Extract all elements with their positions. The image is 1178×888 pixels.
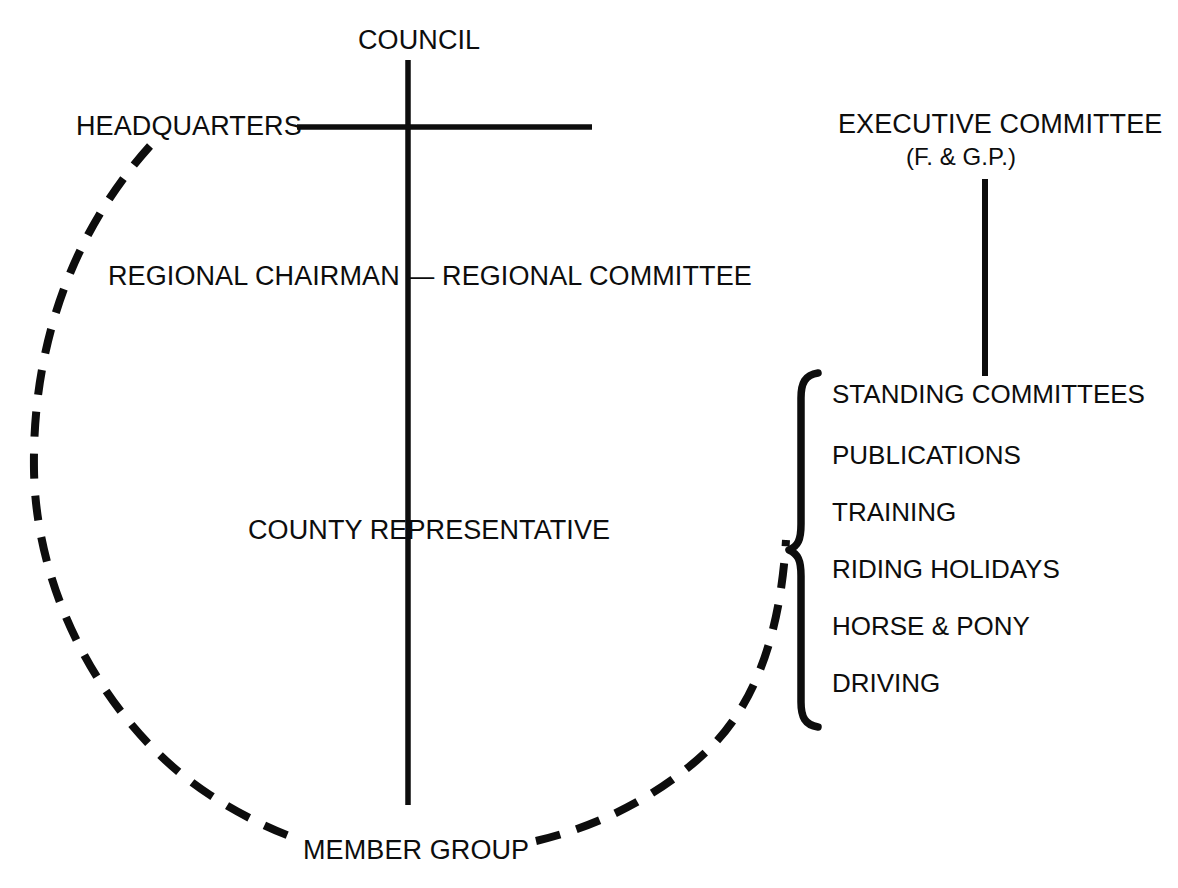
committee-item: RIDING HOLIDAYS bbox=[832, 554, 1060, 585]
committee-item: PUBLICATIONS bbox=[832, 440, 1021, 471]
member-group-to-committees-dashed-arc bbox=[536, 540, 786, 841]
node-executive-committee-subtitle: (F. & G.P.) bbox=[838, 144, 1084, 170]
node-county-representative: COUNTY REPRESENTATIVE bbox=[248, 516, 610, 545]
node-headquarters: HEADQUARTERS bbox=[76, 112, 302, 141]
org-chart-diagram: COUNCIL HEADQUARTERS EXECUTIVE COMMITTEE… bbox=[0, 0, 1178, 888]
node-regional-chairman-committee: REGIONAL CHAIRMAN — REGIONAL COMMITTEE bbox=[108, 262, 752, 291]
committee-item: STANDING COMMITTEES bbox=[832, 379, 1145, 410]
standing-committees-brace bbox=[789, 373, 818, 727]
node-council: COUNCIL bbox=[358, 26, 480, 55]
headquarters-to-member-group-dashed-arc bbox=[34, 146, 300, 840]
committee-item: HORSE & PONY bbox=[832, 611, 1030, 642]
node-member-group: MEMBER GROUP bbox=[303, 836, 529, 865]
committee-item: TRAINING bbox=[832, 497, 956, 528]
committee-item: DRIVING bbox=[832, 668, 940, 699]
node-executive-committee: EXECUTIVE COMMITTEE bbox=[838, 110, 1084, 139]
